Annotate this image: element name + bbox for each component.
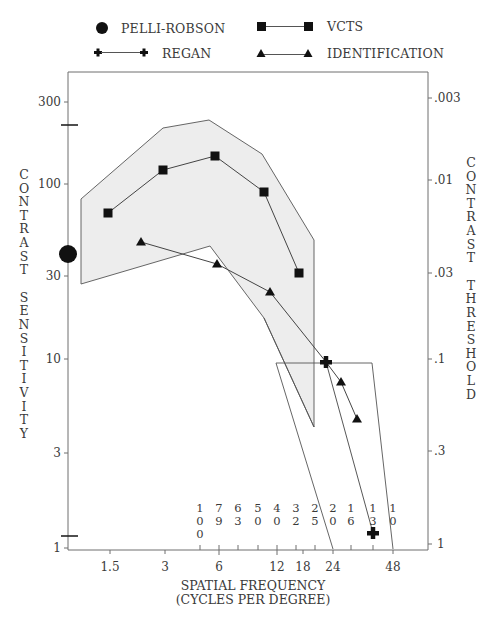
legend-item-identification: IDENTIFICATION (257, 46, 445, 61)
legend-item-regan: REGAN (94, 46, 212, 61)
snellen-digit: 0 (273, 514, 280, 528)
left-tick-label: 300 (38, 95, 61, 109)
snellen-digit: 3 (234, 514, 241, 528)
left-axis-title: CONTRASTSENSITIVITY (18, 167, 29, 441)
snellen-digit: 6 (347, 514, 354, 528)
snellen-digit: 0 (329, 514, 336, 528)
left-tick-label: 100 (38, 177, 61, 191)
left-tick-label: 10 (46, 352, 61, 366)
identification-point (352, 414, 362, 423)
square-marker-icon (257, 22, 266, 31)
vcts-point (211, 152, 220, 161)
snellen-digit: 4 (273, 501, 280, 515)
bottom-tick-label: 24 (325, 560, 341, 574)
snellen-digit: 1 (196, 501, 203, 515)
right-tick-label: 1 (437, 537, 445, 551)
legend-item-pelli-robson: PELLI-ROBSON (96, 21, 225, 36)
regan-point (320, 356, 332, 368)
triangle-marker-icon (257, 49, 266, 57)
x-axis-title-line1: SPATIAL FREQUENCY (181, 578, 326, 593)
left-tick-label: 30 (46, 269, 61, 283)
regan-point (367, 527, 379, 539)
vcts-point (295, 269, 304, 278)
snellen-digit: 3 (292, 501, 299, 515)
snellen-labels: 1 0 0 7 9 6 3 5 0 4 0 3 2 2 5 2 0 1 6 1 … (196, 501, 396, 541)
right-axis: .003 .01 .03 .1 .3 1 (428, 91, 461, 551)
snellen-digit: 7 (215, 501, 222, 515)
legend-label-vcts: VCTS (326, 19, 363, 34)
snellen-digit: 2 (311, 501, 318, 515)
vcts-point (104, 209, 113, 218)
legend-label-identification: IDENTIFICATION (327, 46, 444, 61)
snellen-digit: 0 (254, 514, 261, 528)
snellen-digit: 1 (369, 501, 376, 515)
axis-title-letter: D (466, 387, 476, 402)
right-tick-label: .3 (434, 444, 445, 458)
right-axis-title: CONTRASTTHRESHOLD (465, 155, 476, 402)
identification-point (336, 377, 346, 386)
bottom-tick-label: 18 (295, 560, 310, 574)
cross-marker-icon (140, 49, 148, 57)
snellen-digit: 1 (389, 501, 396, 515)
right-tick-label: .03 (434, 266, 453, 280)
legend-label-regan: REGAN (162, 46, 212, 61)
cross-marker-icon (94, 49, 102, 57)
bottom-axis: 1.5 3 6 12 18 24 48 (100, 545, 400, 574)
vcts-point (159, 166, 168, 175)
left-axis: 300 100 30 10 3 1 (38, 95, 78, 555)
axis-title-letter: T (467, 250, 476, 265)
snellen-digit: 1 (347, 501, 354, 515)
left-tick-label: 3 (53, 446, 61, 460)
right-tick-label: .003 (434, 91, 461, 105)
snellen-digit: 5 (254, 501, 261, 515)
bottom-tick-label: 1.5 (100, 560, 119, 574)
pelli-robson-point (59, 245, 77, 263)
triangle-marker-icon (304, 49, 313, 57)
snellen-digit: 0 (196, 514, 203, 528)
vcts-point (260, 188, 269, 197)
left-tick-label: 1 (53, 541, 61, 555)
right-tick-label: .1 (434, 352, 445, 366)
bottom-tick-label: 6 (215, 560, 223, 574)
bottom-tick-label: 48 (385, 560, 400, 574)
contrast-sensitivity-chart: PELLI-ROBSON REGAN VCTS IDENTIFICATION (0, 0, 496, 617)
snellen-digit: 2 (292, 514, 299, 528)
plot-frame (68, 72, 428, 550)
snellen-digit: 9 (215, 514, 222, 528)
axis-title-letter: Y (19, 426, 29, 441)
snellen-digit: 0 (196, 527, 203, 541)
legend-label-pelli: PELLI-ROBSON (121, 21, 225, 36)
snellen-digit: 3 (369, 514, 376, 528)
legend: PELLI-ROBSON REGAN VCTS IDENTIFICATION (94, 19, 444, 61)
vcts-normal-band (81, 120, 314, 427)
snellen-digit: 0 (389, 514, 396, 528)
square-marker-icon (304, 22, 313, 31)
legend-item-vcts: VCTS (257, 19, 363, 34)
x-axis-title-line2: (CYCLES PER DEGREE) (176, 592, 331, 607)
axis-title-letter: T (20, 262, 29, 277)
snellen-digit: 5 (311, 514, 318, 528)
snellen-digit: 2 (329, 501, 336, 515)
bottom-tick-label: 3 (161, 560, 169, 574)
bottom-tick-label: 12 (269, 560, 284, 574)
snellen-digit: 6 (234, 501, 241, 515)
right-tick-label: .01 (434, 173, 453, 187)
circle-marker-icon (96, 22, 108, 34)
